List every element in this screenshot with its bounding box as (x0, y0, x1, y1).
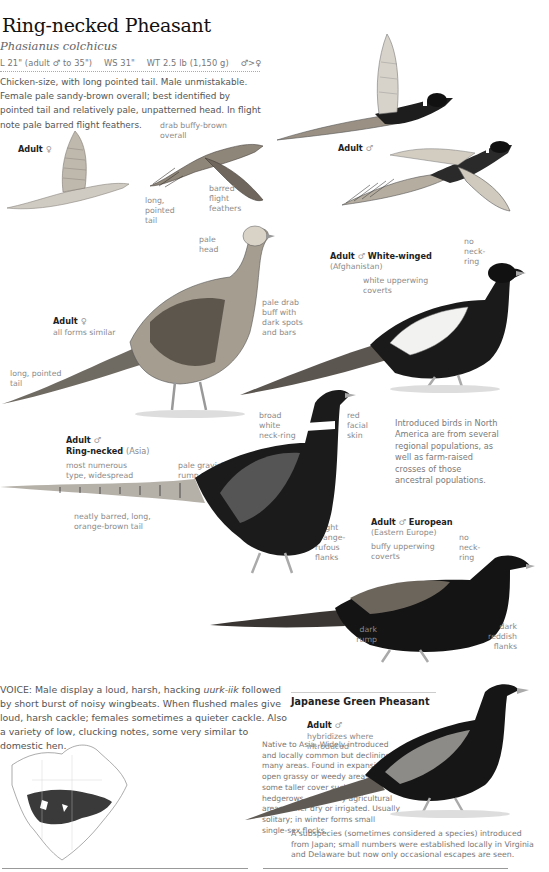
annotation-pale-head: pale head (199, 235, 229, 255)
female-flight-illustration (5, 128, 135, 213)
scientific-name: Phasianus colchicus (0, 39, 117, 53)
header-divider (0, 71, 260, 72)
range-map (2, 740, 132, 865)
european-region: (Eastern Europe) (371, 528, 437, 538)
measurements: L 21" (adult ♂ to 35") WS 31" WT 2.5 lb … (0, 58, 270, 68)
voice-heading: VOICE: (0, 684, 32, 695)
male-flight-illustration-top (275, 32, 460, 142)
male-flight-illustration-bottom (340, 135, 525, 215)
white-winged-illustration (240, 255, 530, 395)
species-title: Ring-necked Pheasant (2, 14, 211, 36)
bottom-rule-left (2, 868, 248, 869)
weight-measure: WT 2.5 lb (1,150 g) (147, 58, 229, 68)
japanese-green-note: A subspecies (sometimes considered a spe… (291, 829, 541, 861)
female-standing-label: Adult ♀ (53, 316, 87, 326)
european-label: Adult ♂ European (371, 517, 453, 527)
annotation-dark-reddish-flanks: dark reddish flanks (487, 622, 517, 652)
japanese-green-illustration (245, 680, 530, 820)
wingspan-measure: WS 31" (104, 58, 135, 68)
female-symbol-icon: ♀ (81, 316, 87, 326)
length-measure: L 21" (adult ♂ to 35") (0, 58, 92, 68)
ring-necked-illustration (0, 383, 360, 578)
introduced-populations-note: Introduced birds in North America are fr… (395, 418, 500, 486)
annotation-barred-flight-feathers: barred flight feathers (209, 184, 249, 214)
annotation-dark-rump: dark rump (349, 625, 377, 645)
male-symbol-icon: ♂ (399, 517, 406, 527)
annotation-all-forms-similar: all forms similar (53, 328, 115, 338)
voice-call: uurk-iik (203, 684, 238, 695)
size-dimorphism: ♂>♀ (241, 58, 262, 68)
bottom-rule-right (263, 868, 508, 869)
